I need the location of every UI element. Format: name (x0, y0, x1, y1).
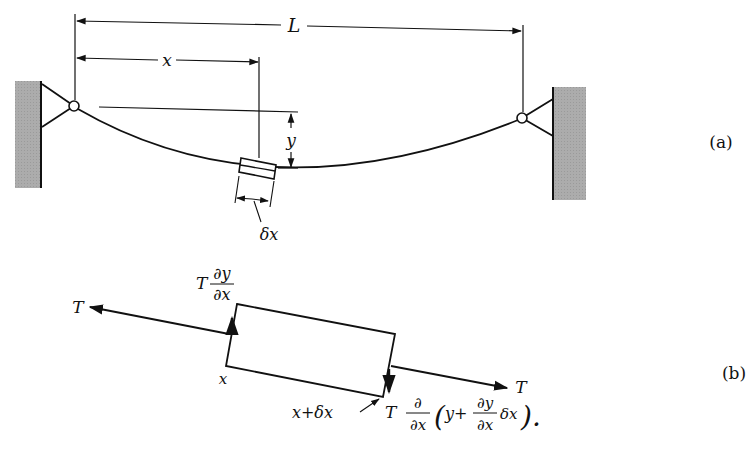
label-dx: δx (260, 225, 279, 244)
dimension-line-x-left (77, 58, 158, 60)
label-tension-left: T (72, 297, 85, 317)
vf-right-den: ∂x (410, 416, 427, 434)
vf-right-num: ∂ (414, 394, 422, 412)
right-wall (554, 87, 586, 200)
vf-left-coef: T (196, 273, 209, 293)
dimension-line-L-right (307, 26, 521, 31)
label-vertical-force-left: T ∂y ∂x (196, 264, 234, 304)
dimension-line-L-left (77, 21, 281, 25)
vf-right-inner-dx: δx (500, 405, 518, 423)
label-x: x (162, 50, 172, 70)
vf-right-paren-close: ). (520, 400, 541, 433)
leader-dx (254, 201, 261, 222)
vf-left-den: ∂x (213, 285, 230, 304)
extension-line-dx-left (235, 176, 239, 203)
extension-line-dx-right (270, 181, 274, 207)
tension-arrow-left (90, 307, 229, 334)
cable (78, 109, 518, 167)
vf-right-inner-num: ∂y (477, 394, 494, 412)
vf-left-num: ∂y (213, 264, 231, 283)
reference-line (99, 107, 298, 112)
string-element-diagram: L x y δx (a) T T (0, 0, 755, 457)
label-right-edge: x+δx (292, 403, 333, 422)
left-wall (15, 81, 41, 188)
vf-right-coef: T (385, 402, 398, 422)
left-pin (69, 101, 79, 111)
free-body-element (226, 304, 395, 397)
vf-right-inner-den: ∂x (477, 416, 494, 434)
leader-right-edge (360, 399, 379, 412)
label-y: y (285, 130, 296, 150)
panel-a-tag: (a) (709, 132, 732, 152)
label-L: L (287, 14, 301, 36)
label-vertical-force-right: T ∂ ∂x ( y+ ∂y ∂x δx ). (385, 394, 541, 434)
dimension-line-dx-left (237, 198, 252, 199)
panel-b: T T T ∂y ∂x x x+δx T ∂ ∂x ( y+ ∂y ∂x (72, 264, 746, 434)
panel-b-tag: (b) (722, 363, 746, 383)
dimension-line-x-right (176, 60, 258, 62)
panel-a: L x y δx (a) (15, 14, 733, 244)
label-tension-right: T (515, 377, 528, 397)
dimension-line-dx-right (252, 199, 268, 201)
vf-right-inner-y: y+ (444, 404, 467, 423)
label-left-edge-x: x (219, 370, 228, 388)
tension-arrow-right (391, 366, 507, 388)
right-pin (517, 113, 527, 123)
